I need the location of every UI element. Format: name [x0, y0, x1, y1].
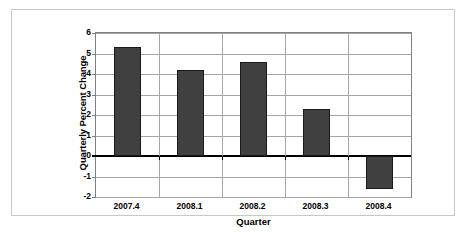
y-tick-label: 0 [69, 151, 91, 160]
x-tick-label: 2008.3 [303, 201, 329, 211]
plot-area [95, 32, 412, 198]
y-tick-label: 3 [69, 89, 91, 98]
y-tick-label: 2 [69, 110, 91, 119]
y-tick-label: -2 [69, 192, 91, 201]
y-tick-mark [92, 155, 96, 157]
y-tick-mark [92, 54, 96, 55]
gridline-horizontal [96, 177, 411, 178]
gridline-vertical [285, 33, 286, 197]
y-tick-label: 1 [69, 130, 91, 139]
gridline-vertical [222, 33, 223, 197]
x-tick-label: 2008.1 [177, 201, 203, 211]
x-tick-mark [348, 156, 349, 160]
gridline-horizontal [96, 197, 411, 198]
y-tick-label: -1 [69, 171, 91, 180]
x-axis-title: Quarter [95, 216, 412, 227]
x-tick-mark [222, 156, 223, 160]
bar [366, 156, 392, 189]
y-tick-mark [92, 115, 96, 116]
bar [114, 47, 140, 156]
x-tick-label: 2008.2 [240, 201, 266, 211]
bar [177, 70, 203, 156]
bar [303, 109, 329, 156]
gridline-horizontal [96, 33, 411, 34]
y-tick-label: 4 [69, 69, 91, 78]
gridline-vertical [159, 33, 160, 197]
y-tick-mark [92, 136, 96, 137]
y-tick-mark [92, 197, 96, 198]
y-tick-mark [92, 33, 96, 34]
x-tick-mark [159, 156, 160, 160]
x-tick-label: 2008.4 [366, 201, 392, 211]
chart-frame: Quarterly Percent Change Quarter 6543210… [11, 9, 455, 216]
y-tick-mark [92, 177, 96, 178]
y-tick-mark [92, 74, 96, 75]
y-tick-label: 6 [69, 28, 91, 37]
x-tick-mark [285, 156, 286, 160]
gridline-vertical [348, 33, 349, 197]
y-tick-label: 5 [69, 48, 91, 57]
gridline-horizontal [96, 54, 411, 55]
bar [240, 62, 266, 156]
x-tick-label: 2007.4 [114, 201, 140, 211]
y-tick-mark [92, 95, 96, 96]
